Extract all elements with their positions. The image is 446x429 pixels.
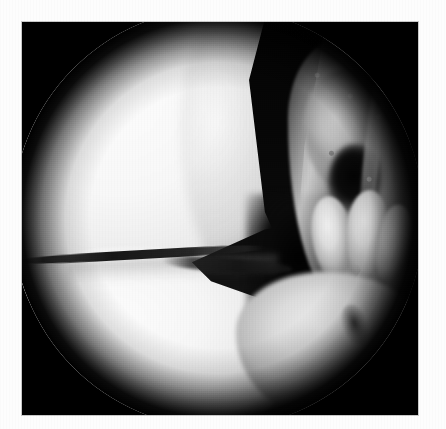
image-frame [22, 22, 418, 415]
page-canvas [0, 0, 446, 429]
scope-vignette [22, 22, 418, 415]
scope-field [22, 22, 418, 415]
